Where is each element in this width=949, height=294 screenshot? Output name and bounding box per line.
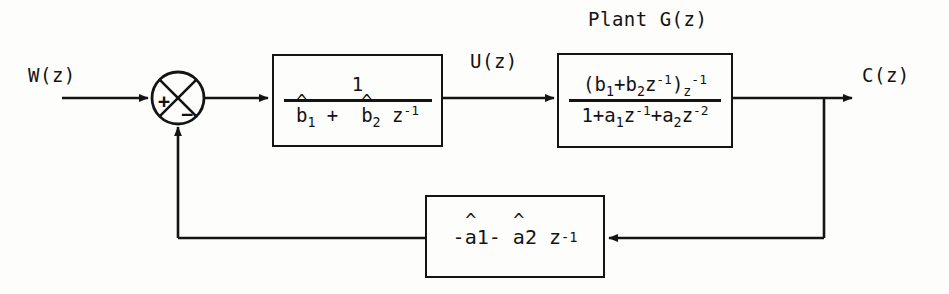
plant-numerator: (b1+b2z-1)z-1 bbox=[583, 75, 707, 95]
plant-fraction-bar bbox=[569, 99, 721, 102]
signal-label-output: C(z) bbox=[862, 66, 910, 85]
controller-denominator: b1 + b2 z-1 bbox=[296, 106, 419, 126]
block-diagram-canvas: + − W(z) U(z) C(z) Plant G(z) 1 b1 + b2 … bbox=[0, 0, 949, 294]
plant-denominator: 1+a1z-1+a2z-2 bbox=[581, 106, 708, 126]
signal-label-controller-output: U(z) bbox=[470, 52, 518, 71]
controller-fraction: 1 b1 + b2 z-1 bbox=[274, 56, 441, 145]
feedback-block: -a1- a2 z-1 bbox=[425, 195, 605, 278]
plant-block: (b1+b2z-1)z-1 1+a1z-1+a2z-2 bbox=[557, 53, 733, 148]
feedback-expression: -a1- a2 z-1 bbox=[427, 197, 603, 276]
summing-junction-minus-sign: − bbox=[181, 104, 193, 124]
signal-label-input: W(z) bbox=[28, 66, 76, 85]
plant-caption: Plant G(z) bbox=[588, 10, 707, 29]
controller-block: 1 b1 + b2 z-1 bbox=[272, 54, 443, 147]
plant-fraction: (b1+b2z-1)z-1 1+a1z-1+a2z-2 bbox=[559, 55, 731, 146]
summing-junction-plus-sign: + bbox=[158, 91, 170, 111]
